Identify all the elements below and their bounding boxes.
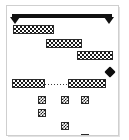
platform-2[interactable] [46, 39, 82, 48]
left-arrow-cap [10, 17, 20, 24]
game-screen: Platformer Level View [0, 0, 129, 140]
ceiling-rail [12, 14, 112, 18]
block-4[interactable] [38, 109, 46, 117]
block-3[interactable] [81, 96, 89, 104]
platform-5[interactable] [68, 79, 106, 88]
dotted-bridge [45, 84, 69, 85]
frame-shadow-right [119, 7, 120, 136]
platform-1[interactable] [13, 25, 54, 34]
block-1[interactable] [38, 96, 46, 104]
right-arrow-cap [104, 17, 114, 24]
platform-4[interactable] [12, 79, 45, 88]
playfield [7, 6, 118, 135]
block-5[interactable] [61, 122, 69, 130]
block-2[interactable] [61, 96, 69, 104]
diamond-collectible[interactable] [104, 66, 115, 77]
screen-title: Platformer Level View [0, 0, 1, 1]
frame-shadow-bottom [8, 136, 120, 137]
block-6[interactable] [81, 134, 89, 135]
platform-3[interactable] [77, 51, 113, 60]
